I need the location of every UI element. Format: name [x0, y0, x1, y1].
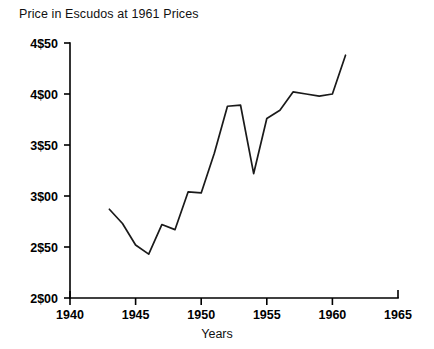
- x-tick-label: 1965: [384, 308, 412, 322]
- y-tick-label: 2$00: [30, 292, 58, 306]
- y-tick-label: 3$50: [30, 139, 58, 153]
- x-tick-label: 1945: [122, 308, 150, 322]
- x-axis-tick-labels: 194019451950195519601965: [56, 308, 412, 322]
- y-tick-label: 2$50: [30, 241, 58, 255]
- x-tick-label: 1960: [318, 308, 346, 322]
- y-tick-label: 3$00: [30, 190, 58, 204]
- y-tick-label: 4$50: [30, 37, 58, 51]
- chart-plot-area: 2$002$503$003$504$004$50 194019451950195…: [0, 0, 434, 349]
- y-axis-tick-labels: 2$002$503$003$504$004$50: [30, 37, 58, 306]
- y-tick-label: 4$00: [30, 88, 58, 102]
- chart-container: Price in Escudos at 1961 Prices 2$002$50…: [0, 0, 434, 349]
- x-tick-label: 1940: [56, 308, 84, 322]
- data-series-line: [109, 55, 345, 254]
- x-tick-label: 1950: [187, 308, 215, 322]
- y-axis-tick-marks: [64, 43, 70, 298]
- x-tick-label: 1955: [253, 308, 281, 322]
- x-axis-title: Years: [0, 327, 434, 341]
